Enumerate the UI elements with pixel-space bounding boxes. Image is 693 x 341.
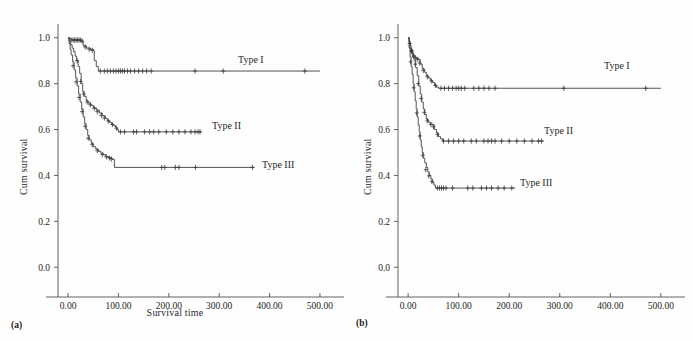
panel-a-series-label-type-3: Type III [262, 159, 294, 170]
svg-text:0.6: 0.6 [38, 125, 50, 135]
panel-b-series-label-type-1: Type I [604, 60, 630, 71]
panel-b-plot: 0.00.20.40.60.81.00.00100.00200.00300.00… [346, 0, 693, 341]
svg-text:0.6: 0.6 [378, 125, 390, 135]
svg-text:0.0: 0.0 [378, 263, 390, 273]
panel-a-series-label-type-2: Type II [212, 120, 241, 131]
svg-text:500.00: 500.00 [307, 301, 333, 311]
svg-text:0.4: 0.4 [378, 171, 390, 181]
svg-text:0.8: 0.8 [38, 79, 50, 89]
panel-a-caption: (a) [11, 320, 22, 330]
svg-text:0.00: 0.00 [400, 301, 417, 311]
svg-text:300.00: 300.00 [206, 301, 232, 311]
panel-a: 0.00.20.40.60.81.00.00100.00200.00300.00… [0, 0, 346, 341]
svg-text:500.00: 500.00 [648, 301, 674, 311]
panel-b-y-axis-title: Cum survival [362, 138, 373, 195]
svg-text:0.4: 0.4 [38, 171, 50, 181]
svg-text:0.2: 0.2 [38, 217, 50, 227]
svg-text:0.0: 0.0 [38, 263, 50, 273]
svg-text:1.0: 1.0 [38, 33, 50, 43]
svg-text:300.00: 300.00 [547, 301, 573, 311]
svg-text:100.00: 100.00 [105, 301, 131, 311]
panel-a-series-label-type-1: Type I [238, 54, 264, 65]
svg-text:400.00: 400.00 [597, 301, 623, 311]
svg-text:1.0: 1.0 [378, 33, 390, 43]
svg-text:200.00: 200.00 [496, 301, 522, 311]
svg-text:100.00: 100.00 [446, 301, 472, 311]
panel-b-caption: (b) [356, 318, 368, 328]
panel-b: 0.00.20.40.60.81.00.00100.00200.00300.00… [346, 0, 693, 341]
panel-b-series-label-type-3: Type III [520, 177, 552, 188]
svg-text:0.8: 0.8 [378, 79, 390, 89]
panel-b-series-label-type-2: Type II [544, 125, 573, 136]
svg-text:400.00: 400.00 [256, 301, 282, 311]
panel-a-y-axis-title: Cum survival [18, 138, 29, 195]
survival-figure: 0.00.20.40.60.81.00.00100.00200.00300.00… [0, 0, 693, 341]
svg-text:0.2: 0.2 [378, 217, 390, 227]
svg-text:0.00: 0.00 [60, 301, 77, 311]
panel-a-plot: 0.00.20.40.60.81.00.00100.00200.00300.00… [0, 0, 346, 341]
panel-a-x-axis-title: Survival time [147, 307, 204, 318]
